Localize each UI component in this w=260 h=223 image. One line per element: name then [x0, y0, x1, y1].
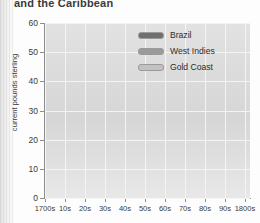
- gridline-vertical: [225, 23, 226, 198]
- y-axis-label: 0: [14, 193, 38, 203]
- gridline-vertical: [65, 23, 66, 198]
- gridline-vertical: [105, 23, 106, 198]
- y-axis-label: 60: [14, 18, 38, 28]
- gridline-horizontal: [45, 198, 250, 199]
- y-axis-label: 20: [14, 135, 38, 145]
- y-axis-tick: [40, 52, 44, 53]
- legend-item: Brazil: [138, 30, 215, 40]
- legend-label: Brazil: [170, 30, 192, 40]
- gridline-horizontal: [45, 23, 250, 24]
- legend-label: West Indies: [170, 46, 215, 56]
- y-axis-tick: [40, 23, 44, 24]
- y-axis-tick: [40, 140, 44, 141]
- chart-figure: and the Caribbean current pounds sterlin…: [0, 0, 260, 223]
- legend-swatch-icon: [138, 64, 164, 71]
- gridline-vertical: [85, 23, 86, 198]
- chart-title: and the Caribbean: [14, 0, 113, 9]
- legend-item: West Indies: [138, 46, 215, 56]
- gridline-vertical: [125, 23, 126, 198]
- y-axis-label: 10: [14, 164, 38, 174]
- y-axis-tick: [40, 111, 44, 112]
- y-axis-tick: [40, 81, 44, 82]
- y-axis-label: 50: [14, 47, 38, 57]
- gridline-horizontal: [45, 140, 250, 141]
- legend-label: Gold Coast: [170, 62, 213, 72]
- legend-item: Gold Coast: [138, 62, 215, 72]
- legend-swatch-icon: [138, 32, 164, 39]
- gridline-horizontal: [45, 111, 250, 112]
- gridline-horizontal: [45, 81, 250, 82]
- y-axis-tick: [40, 169, 44, 170]
- y-axis-tick: [40, 198, 44, 199]
- y-axis-label: 30: [14, 106, 38, 116]
- legend-swatch-icon: [138, 48, 164, 55]
- gridline-horizontal: [45, 169, 250, 170]
- y-axis-label: 40: [14, 76, 38, 86]
- gridline-vertical: [245, 23, 246, 198]
- chart-legend: BrazilWest IndiesGold Coast: [138, 30, 215, 72]
- x-axis-label: 1800s: [231, 204, 259, 213]
- gridline-vertical: [45, 23, 46, 198]
